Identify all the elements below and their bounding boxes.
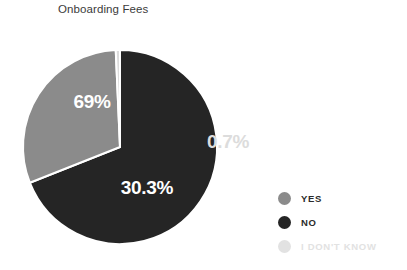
legend-item[interactable]: I DON'T KNOW: [278, 234, 403, 258]
pie-slice-value-label: 30.3%: [121, 177, 174, 198]
legend-item-label: I DON'T KNOW: [301, 241, 377, 252]
legend-item-label: YES: [301, 193, 322, 204]
legend-item[interactable]: NO: [278, 210, 403, 234]
chart-legend: YESNOI DON'T KNOW: [278, 186, 403, 258]
legend-color-swatch-icon: [278, 192, 291, 205]
pie-chart-figure: Onboarding Fees 69%30.3%0.7% YESNOI DON'…: [0, 0, 407, 270]
legend-color-swatch-icon: [278, 216, 291, 229]
pie-slice-value-label: 69%: [73, 91, 111, 112]
legend-color-swatch-icon: [278, 240, 291, 253]
legend-item-label: NO: [301, 217, 317, 228]
pie-slices: [23, 50, 217, 244]
pie-svg: 69%30.3%0.7%: [0, 0, 270, 270]
pie-slice-value-label: 0.7%: [207, 131, 250, 152]
legend-item[interactable]: YES: [278, 186, 403, 210]
pie-plot-area: 69%30.3%0.7%: [0, 0, 270, 270]
